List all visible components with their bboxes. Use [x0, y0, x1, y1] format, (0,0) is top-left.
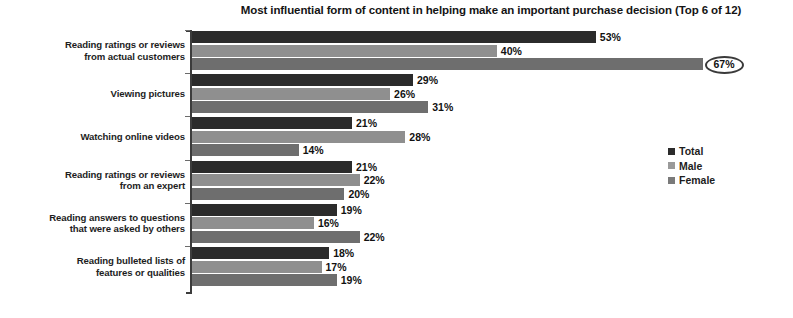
chart-title: Most influential form of content in help…: [196, 4, 786, 16]
bar-male[interactable]: [192, 88, 390, 100]
bar-value-label: 14%: [303, 144, 324, 156]
bar-female[interactable]: [192, 144, 299, 156]
bar-male[interactable]: [192, 174, 360, 186]
legend-label: Total: [679, 144, 703, 159]
bar-value-label: 22%: [364, 174, 385, 186]
bar-value-label: 20%: [348, 188, 369, 200]
bar-value-label: 53%: [600, 31, 621, 43]
bar-group: Reading ratings or reviewsfrom actual cu…: [0, 31, 793, 74]
bar-female[interactable]: [192, 274, 337, 286]
bar-female[interactable]: [192, 58, 703, 70]
legend-item-total[interactable]: Total: [668, 144, 715, 159]
category-label: Reading bulleted lists offeatures or qua…: [7, 255, 185, 278]
axis-cap-bottom: [186, 292, 192, 294]
axis-tick: [185, 203, 190, 204]
category-label: Viewing pictures: [7, 88, 185, 100]
bar-value-label: 19%: [341, 274, 362, 286]
bar-group: Reading answers to questionsthat were as…: [0, 204, 793, 247]
bar-male[interactable]: [192, 131, 405, 143]
category-label: Reading ratings or reviewsfrom an expert: [7, 169, 185, 192]
bar-value-label: 29%: [417, 74, 438, 86]
bar-male[interactable]: [192, 261, 322, 273]
bar-female[interactable]: [192, 231, 360, 243]
bar-value-label: 16%: [318, 217, 339, 229]
bar-male[interactable]: [192, 45, 497, 57]
bar-total[interactable]: [192, 247, 329, 259]
legend-swatch-icon: [668, 148, 675, 155]
chart-legend: TotalMaleFemale: [668, 144, 715, 188]
bar-value-label: 26%: [394, 88, 415, 100]
axis-tick: [185, 73, 190, 74]
bar-value-label: 17%: [326, 261, 347, 273]
category-label: Reading ratings or reviewsfrom actual cu…: [7, 39, 185, 62]
legend-item-female[interactable]: Female: [668, 173, 715, 188]
bar-total[interactable]: [192, 161, 352, 173]
bar-female[interactable]: [192, 101, 428, 113]
bar-value-label: 21%: [356, 161, 377, 173]
bar-value-label: 67%: [705, 56, 744, 74]
bar-male[interactable]: [192, 217, 314, 229]
bar-total[interactable]: [192, 31, 596, 43]
bar-total[interactable]: [192, 74, 413, 86]
bar-chart: Most influential form of content in help…: [0, 0, 793, 318]
category-label: Reading answers to questionsthat were as…: [7, 212, 185, 235]
legend-label: Male: [679, 159, 702, 174]
category-label: Watching online videos: [7, 131, 185, 143]
bar-total[interactable]: [192, 204, 337, 216]
bar-value-label: 31%: [432, 101, 453, 113]
axis-tick: [185, 246, 190, 247]
bar-value-label: 21%: [356, 117, 377, 129]
axis-tick: [185, 160, 190, 161]
bar-value-label: 28%: [409, 131, 430, 143]
bar-female[interactable]: [192, 188, 344, 200]
legend-swatch-icon: [668, 177, 675, 184]
bar-value-label: 19%: [341, 204, 362, 216]
bar-value-label: 18%: [333, 247, 354, 259]
axis-tick: [185, 116, 190, 117]
bar-total[interactable]: [192, 117, 352, 129]
bar-value-label: 40%: [501, 45, 522, 57]
legend-swatch-icon: [668, 162, 675, 169]
bar-group: Viewing pictures29%26%31%: [0, 74, 793, 117]
bar-value-label: 22%: [364, 231, 385, 243]
legend-item-male[interactable]: Male: [668, 159, 715, 174]
axis-tick: [185, 30, 190, 31]
legend-label: Female: [679, 173, 715, 188]
bar-group: Reading bulleted lists offeatures or qua…: [0, 247, 793, 290]
